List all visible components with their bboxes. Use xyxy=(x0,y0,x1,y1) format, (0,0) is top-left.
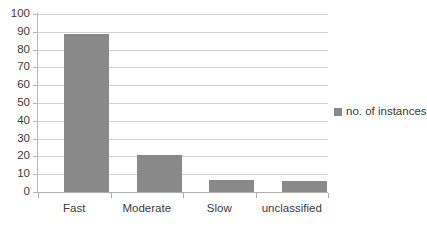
y-axis-line xyxy=(37,13,38,193)
y-tick-mark xyxy=(33,192,37,193)
x-tick-mark xyxy=(256,193,257,198)
y-tick-label: 0 xyxy=(2,186,30,198)
bar-slow[interactable] xyxy=(209,180,254,193)
bar-unclassified[interactable] xyxy=(282,181,327,192)
legend: no. of instances xyxy=(334,106,427,118)
y-tick-mark xyxy=(33,50,37,51)
legend-label: no. of instances xyxy=(346,106,427,118)
y-tick-mark xyxy=(33,85,37,86)
x-tick-mark xyxy=(38,193,39,198)
y-tick-label: 20 xyxy=(2,150,30,162)
y-tick-mark xyxy=(33,103,37,104)
x-category-label-fast: Fast xyxy=(38,203,111,215)
y-tick-mark xyxy=(33,174,37,175)
y-tick-mark xyxy=(33,156,37,157)
y-tick-mark xyxy=(33,67,37,68)
bar-series-no-of-instances xyxy=(38,14,328,192)
x-tick-mark xyxy=(111,193,112,198)
y-tick-mark xyxy=(33,14,37,15)
x-tick-mark xyxy=(183,193,184,198)
y-tick-mark xyxy=(33,121,37,122)
y-tick-label: 70 xyxy=(2,61,30,73)
x-category-label-slow: Slow xyxy=(183,203,256,215)
y-tick-mark xyxy=(33,32,37,33)
y-tick-label: 60 xyxy=(2,79,30,91)
y-tick-label: 50 xyxy=(2,97,30,109)
y-tick-label: 30 xyxy=(2,133,30,145)
x-category-label-moderate: Moderate xyxy=(111,203,184,215)
bar-moderate[interactable] xyxy=(137,155,182,192)
y-tick-mark xyxy=(33,139,37,140)
y-tick-label: 10 xyxy=(2,168,30,180)
x-tick-mark xyxy=(328,193,329,198)
y-tick-label: 40 xyxy=(2,115,30,127)
legend-square-marker-icon xyxy=(334,108,342,116)
y-tick-label: 90 xyxy=(2,26,30,38)
y-tick-label: 100 xyxy=(2,8,30,20)
bar-fast[interactable] xyxy=(64,34,109,192)
bar-chart: 100 90 80 70 60 50 40 30 20 10 0 Fast Mo… xyxy=(0,0,427,230)
y-tick-label: 80 xyxy=(2,44,30,56)
x-category-label-unclassified: unclassified xyxy=(256,203,329,215)
